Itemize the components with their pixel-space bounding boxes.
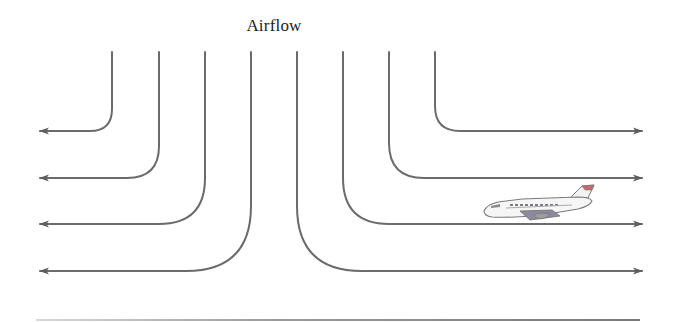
streamline-right-4	[297, 52, 642, 271]
streamline-left-2	[40, 52, 159, 178]
streamline-right-1	[435, 52, 642, 131]
airplane-icon	[484, 185, 594, 220]
bottom-divider	[36, 319, 640, 321]
streamline-left-1	[40, 52, 112, 131]
airflow-diagram	[0, 0, 675, 322]
streamline-right-3	[343, 52, 642, 224]
streamline-right-2	[389, 52, 642, 178]
streamline-left-3	[40, 52, 205, 224]
streamline-left-4	[40, 52, 251, 271]
